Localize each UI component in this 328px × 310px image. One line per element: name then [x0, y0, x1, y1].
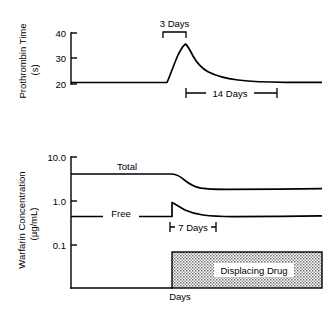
displacing-drug-label: Displacing Drug [220, 265, 287, 276]
warfarin-concentration-chart: 10.0 1.0 0.1 Warfarin Concentration (µg/… [16, 152, 322, 303]
annotation-bracket-3-days [163, 32, 186, 38]
prothrombin-time-chart: 40 30 20 Prothrombin Time (s) 3 Days 14 … [17, 18, 322, 99]
bottom-chart-ytick-label-1: 1.0 [53, 196, 66, 207]
top-chart-ytick-label-20: 20 [55, 79, 66, 90]
top-chart-ytick-label-30: 30 [55, 53, 66, 64]
annotation-label-3-days: 3 Days [160, 18, 190, 29]
pharmacokinetics-figure: 40 30 20 Prothrombin Time (s) 3 Days 14 … [0, 0, 328, 310]
top-chart-y-axis-units: (s) [29, 64, 40, 75]
total-warfarin-curve [71, 174, 322, 189]
total-series-label: Total [117, 161, 137, 172]
bottom-chart-x-axis-title: Days [169, 291, 191, 302]
figure-canvas: 40 30 20 Prothrombin Time (s) 3 Days 14 … [0, 0, 328, 310]
annotation-bracket-14-days-left [186, 88, 206, 98]
bottom-chart-y-axis-units: (µg/mL) [28, 208, 39, 241]
top-chart-y-axis-title: Prothrombin Time [17, 24, 28, 99]
annotation-bracket-7-days-left [170, 222, 175, 232]
annotation-bracket-14-days-right [254, 88, 277, 98]
bottom-chart-ytick-label-10: 10.0 [48, 152, 67, 163]
annotation-label-7-days: 7 Days [178, 222, 208, 233]
free-series-label: Free [111, 208, 131, 219]
annotation-label-14-days: 14 Days [213, 88, 248, 99]
prothrombin-time-curve [71, 44, 322, 83]
bottom-chart-ytick-label-0-1: 0.1 [53, 240, 66, 251]
annotation-bracket-7-days-right [211, 222, 216, 232]
top-chart-ytick-label-40: 40 [55, 28, 66, 39]
bottom-chart-y-axis-title: Warfarin Concentration [16, 171, 27, 268]
